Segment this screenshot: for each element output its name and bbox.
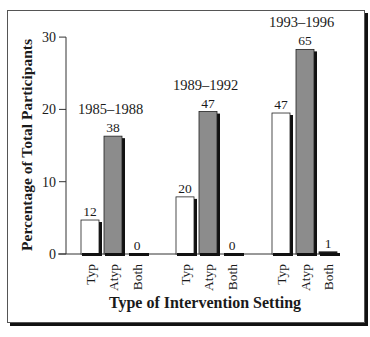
- bar-atyp: [104, 136, 122, 254]
- y-tick-label: 0: [49, 247, 56, 262]
- bar-base: [105, 253, 125, 256]
- bar-base: [129, 253, 149, 256]
- category-label-typ: Typ: [274, 264, 289, 285]
- bar-atyp: [296, 49, 314, 254]
- category-label-both: Both: [321, 264, 336, 291]
- category-label-typ: Typ: [83, 264, 98, 285]
- bar-value-label: 12: [83, 204, 97, 219]
- bar-value-label: 0: [134, 238, 141, 253]
- category-label-atyp: Atyp: [298, 264, 313, 291]
- group-period-label: 1985–1988: [78, 101, 143, 117]
- bar-base: [297, 253, 317, 256]
- bar-typ: [176, 197, 194, 254]
- bar-value-label: 1: [325, 236, 332, 251]
- y-tick-label: 10: [42, 175, 56, 190]
- category-label-both: Both: [130, 264, 145, 291]
- bar-typ: [272, 113, 290, 254]
- bar-atyp: [199, 112, 217, 254]
- category-label-atyp: Atyp: [201, 264, 216, 291]
- category-label-typ: Typ: [178, 264, 193, 285]
- y-tick-label: 30: [42, 30, 56, 45]
- bar-value-label: 65: [298, 33, 312, 48]
- category-label-both: Both: [225, 264, 240, 291]
- bar-value-label: 38: [106, 120, 120, 135]
- bar-typ: [81, 220, 99, 254]
- bar-value-label: 47: [201, 96, 215, 111]
- bar-value-label: 0: [229, 238, 236, 253]
- group-period-label: 1989–1992: [173, 77, 238, 93]
- y-axis-label: Percentage of Total Participants: [18, 39, 35, 251]
- bar-base: [320, 253, 340, 256]
- bar-base: [177, 253, 197, 256]
- x-axis-label: Type of Intervention Setting: [109, 294, 301, 312]
- bar-base: [273, 253, 293, 256]
- bar-value-label: 47: [274, 97, 288, 112]
- bar-chart: 0102030Percentage of Total ParticipantsT…: [0, 0, 370, 337]
- group-period-label: 1993–1996: [269, 14, 334, 30]
- category-label-atyp: Atyp: [106, 264, 121, 291]
- bar-base: [82, 253, 102, 256]
- bar-base: [224, 253, 244, 256]
- bar-value-label: 20: [178, 181, 192, 196]
- bar-base: [200, 253, 220, 256]
- y-tick-label: 20: [42, 102, 56, 117]
